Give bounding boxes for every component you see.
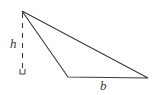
right-angle-marker-icon [20,69,25,74]
geometry-figure: h b [0,0,155,95]
height-label: h [10,36,17,51]
triangle-outline [22,11,148,78]
triangle-diagram-canvas: h b [0,0,155,95]
base-label: b [100,78,107,93]
